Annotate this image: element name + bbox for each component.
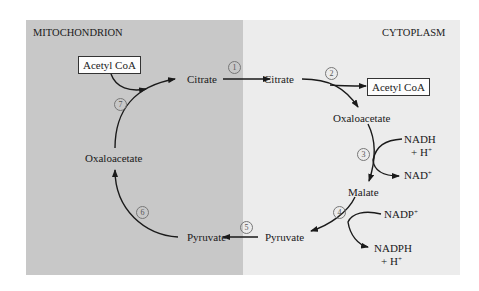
mitochondrion-label: MITOCHONDRION [33,28,123,39]
nad-plus-label: NAD+ [404,170,432,181]
step-3-marker: 3 [357,148,370,161]
step-2-marker: 2 [325,67,338,80]
h-plus-2-label: + H+ [381,256,402,267]
nadh-label: NADH [404,134,436,145]
h-plus-2-text: + H [381,255,398,267]
diagram: MITOCHONDRION CYTOPLASM Acetyl CoA Citra… [0,0,479,291]
superscript-plus: + [428,169,432,177]
step-7-marker: 7 [114,98,127,111]
cytoplasm-label: CYTOPLASM [382,28,445,39]
h-plus-1-text: + H [411,146,428,158]
acetyl-coa-mito-box: Acetyl CoA [78,56,141,74]
acetyl-coa-cyto-box: Acetyl CoA [367,78,430,96]
step-4-marker: 4 [333,206,346,219]
malate-label: Malate [348,187,379,198]
superscript-plus: + [398,255,402,263]
oxaloacetate-mito-label: Oxaloacetate [85,153,142,164]
nadph-label: NADPH [374,243,412,254]
citrate-mito-label: Citrate [187,74,217,85]
step-1-marker: 1 [228,61,241,74]
pyruvate-mito-label: Pyruvate [187,232,226,243]
step-5-marker: 5 [240,221,253,234]
citrate-cyto-label: Citrate [264,74,294,85]
oxaloacetate-cyto-label: Oxaloacetate [333,113,390,124]
nad-text: NAD [404,169,428,181]
pyruvate-cyto-label: Pyruvate [265,232,304,243]
nadp-text: NADP [384,208,414,220]
superscript-plus: + [414,208,418,216]
step-6-marker: 6 [136,206,149,219]
h-plus-1-label: + H+ [411,147,432,158]
superscript-plus: + [428,146,432,154]
nadp-plus-label: NADP+ [384,209,418,220]
